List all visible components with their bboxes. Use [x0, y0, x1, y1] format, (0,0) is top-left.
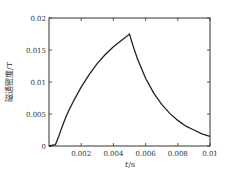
- flux-density-curve: [49, 34, 210, 146]
- y-tick-label: 0.01: [30, 79, 46, 87]
- y-axis-ticks: 00.0050.010.0150.02: [26, 15, 210, 151]
- y-tick-label: 0.005: [26, 111, 46, 119]
- y-axis-label: 磁通密度/T: [4, 61, 14, 102]
- flux-density-chart: 0.0020.0040.0060.0080.01 00.0050.010.015…: [0, 0, 230, 175]
- x-tick-label: 0.002: [71, 150, 91, 158]
- x-axis-label: t/s: [125, 160, 135, 169]
- x-tick-label: 0.01: [202, 150, 218, 158]
- y-tick-label: 0.015: [26, 47, 46, 55]
- y-tick-label: 0.02: [30, 15, 46, 23]
- x-tick-label: 0.004: [103, 150, 124, 158]
- x-tick-label: 0.008: [168, 150, 188, 158]
- x-tick-label: 0.006: [136, 150, 157, 158]
- x-axis-ticks: 0.0020.0040.0060.0080.01: [71, 18, 218, 158]
- y-tick-label: 0: [42, 143, 46, 151]
